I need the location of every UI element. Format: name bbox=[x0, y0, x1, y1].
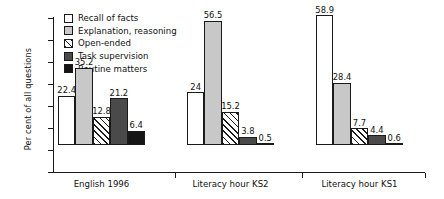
bar[interactable]: 22.4 bbox=[58, 96, 75, 145]
bar-value-label: 6.4 bbox=[130, 120, 143, 130]
bar-chart: Per cent of all questions 01020304050607… bbox=[0, 0, 444, 199]
x-axis-tick-mark bbox=[302, 173, 303, 178]
category-label: Literacy hour KS1 bbox=[316, 179, 403, 189]
bar[interactable]: 0.6 bbox=[386, 143, 403, 145]
x-axis-tick-mark bbox=[425, 173, 426, 178]
x-axis-line bbox=[53, 172, 425, 173]
bar[interactable]: 7.7 bbox=[351, 128, 368, 145]
bar[interactable]: 6.4 bbox=[128, 131, 145, 145]
bar-value-label: 3.8 bbox=[241, 126, 254, 136]
x-axis-tick-mark bbox=[175, 173, 176, 178]
bar[interactable]: 12.8 bbox=[93, 117, 110, 145]
bar-value-label: 22.4 bbox=[57, 85, 76, 95]
bar-value-label: 21.2 bbox=[110, 88, 129, 98]
bar[interactable]: 0.5 bbox=[257, 143, 274, 145]
bar-value-label: 35.2 bbox=[75, 57, 94, 67]
bar-value-label: 12.8 bbox=[92, 106, 111, 116]
bar-value-label: 7.7 bbox=[353, 118, 366, 128]
bar[interactable]: 4.4 bbox=[368, 135, 385, 145]
bar-value-label: 24 bbox=[190, 82, 201, 92]
bar-value-label: 56.5 bbox=[204, 10, 223, 20]
bar-value-label: 28.4 bbox=[333, 72, 352, 82]
bar[interactable]: 28.4 bbox=[333, 83, 350, 145]
bar-group: 22.435.212.821.26.4 bbox=[58, 0, 145, 145]
plot-area: 22.435.212.821.26.42456.515.23.80.558.92… bbox=[0, 0, 444, 172]
bar-value-label: 0.5 bbox=[259, 133, 272, 143]
category-label: English 1996 bbox=[58, 179, 145, 189]
bar[interactable]: 56.5 bbox=[204, 21, 221, 145]
bar-value-label: 58.9 bbox=[315, 5, 334, 15]
bar-value-label: 4.4 bbox=[370, 125, 383, 135]
bar[interactable]: 58.9 bbox=[316, 15, 333, 145]
bar-value-label: 0.6 bbox=[388, 133, 401, 143]
bar-value-label: 15.2 bbox=[221, 101, 240, 111]
category-label: Literacy hour KS2 bbox=[187, 179, 274, 189]
bar[interactable]: 24 bbox=[187, 92, 204, 145]
bar[interactable]: 35.2 bbox=[75, 68, 92, 145]
bar[interactable]: 15.2 bbox=[222, 112, 239, 145]
bar[interactable]: 3.8 bbox=[239, 137, 256, 145]
bar[interactable]: 21.2 bbox=[110, 98, 127, 145]
bar-group: 2456.515.23.80.5 bbox=[187, 0, 274, 145]
bar-group: 58.928.47.74.40.6 bbox=[316, 0, 403, 145]
